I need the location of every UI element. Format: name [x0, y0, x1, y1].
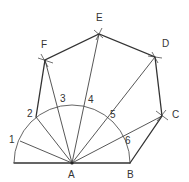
- vertex-label-e: E: [96, 12, 103, 23]
- division-label-3: 3: [60, 93, 66, 104]
- ray-a-c: [72, 116, 162, 163]
- vertex-a-dot: [70, 161, 73, 164]
- division-label-1: 1: [9, 134, 15, 145]
- ray-a-f: [45, 60, 72, 163]
- division-label-5: 5: [110, 109, 116, 120]
- ray-a-e: [72, 34, 99, 163]
- vertex-label-a: A: [68, 169, 75, 180]
- vertex-label-f: F: [41, 39, 47, 50]
- ray-a-2: [36, 117, 72, 163]
- vertex-label-c: C: [172, 109, 179, 120]
- division-label-4: 4: [88, 94, 94, 105]
- polygon-construction-diagram: A B C D E F 1 2 3 4 5 6: [0, 0, 189, 182]
- division-label-2: 2: [27, 108, 33, 119]
- ray-a-1: [20, 141, 72, 163]
- vertex-label-d: D: [162, 38, 169, 49]
- vertex-label-b: B: [127, 169, 134, 180]
- division-label-6: 6: [125, 135, 131, 146]
